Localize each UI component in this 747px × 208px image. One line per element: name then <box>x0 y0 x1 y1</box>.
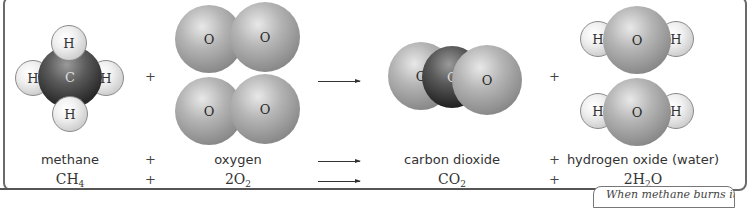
formula-tail: O <box>651 171 662 187</box>
formula-base: CH <box>56 171 79 187</box>
reaction-arrow <box>318 181 360 182</box>
reactant-name-methane: methane <box>41 152 99 167</box>
hydrogen-atom: H <box>52 96 88 132</box>
formula-subscript: 2 <box>460 179 466 189</box>
oxygen-atom: O <box>452 45 522 115</box>
reactant-name-oxygen: oxygen <box>214 152 261 167</box>
formula-subscript: 2 <box>245 179 251 189</box>
oxygen-atom: O <box>230 74 300 144</box>
plus-sign: + <box>549 152 560 167</box>
oxygen-atom: O <box>603 6 671 74</box>
oxygen-atom: O <box>230 2 300 72</box>
caption-text: When methane burns it joins <box>594 187 734 203</box>
formula-subscript: 4 <box>79 179 85 189</box>
plus-sign: + <box>145 152 156 167</box>
product-name-water: hydrogen oxide (water) <box>567 152 719 167</box>
reaction-arrow <box>318 161 360 162</box>
formula-base: 2O <box>225 171 245 187</box>
plus-sign: + <box>549 172 560 187</box>
oxygen-atom: O <box>603 78 671 146</box>
plus-sign: + <box>549 69 560 84</box>
formula-base: CO <box>438 171 460 187</box>
formula-carbon-dioxide: CO2 <box>438 171 466 189</box>
caption-box: When methane burns it joins <box>593 186 735 208</box>
formula-methane: CH4 <box>56 171 85 189</box>
hydrogen-atom: H <box>51 25 87 61</box>
formula-base: 2H <box>624 171 645 187</box>
plus-sign: + <box>145 172 156 187</box>
reaction-arrow <box>318 81 360 82</box>
formula-oxygen: 2O2 <box>225 171 251 189</box>
plus-sign: + <box>145 69 156 84</box>
product-name-carbon-dioxide: carbon dioxide <box>404 152 500 167</box>
